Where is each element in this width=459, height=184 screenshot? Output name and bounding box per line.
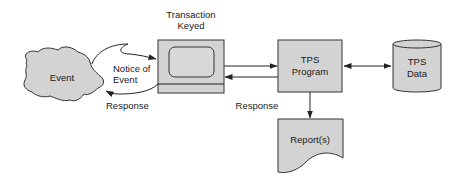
tps-diagram: Event Transaction Keyed Notice of Event … [0, 0, 459, 184]
terminal-node [158, 40, 224, 93]
data-label-line2: Data [407, 68, 428, 79]
program-label-line2: Program [292, 66, 329, 77]
response-mid-label: Response [236, 100, 279, 111]
event-node: Event [24, 47, 104, 101]
program-node: TPS Program [278, 40, 342, 92]
data-label-line1: TPS [408, 56, 426, 67]
terminal-label-line2: Keyed [178, 20, 205, 31]
data-node: TPS Data [393, 40, 441, 92]
terminal-label-line1: Transaction [166, 9, 215, 20]
response-left-arrow [106, 84, 158, 94]
response-left-label: Response [106, 100, 149, 111]
notice-label-line1: Notice of [113, 63, 151, 74]
document-icon [278, 119, 343, 173]
report-node: Report(s) [278, 119, 343, 173]
notice-label-line2: Event [113, 74, 138, 85]
database-top [393, 40, 441, 48]
event-label: Event [50, 72, 75, 83]
notice-arrow [92, 44, 156, 64]
terminal-screen-icon [169, 47, 214, 77]
report-label: Report(s) [290, 134, 330, 145]
program-label-line1: TPS [301, 54, 319, 65]
